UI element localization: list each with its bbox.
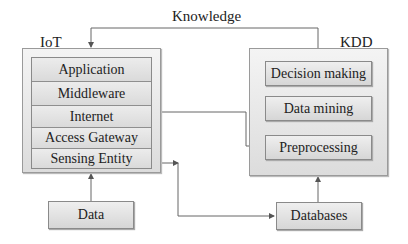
knowledge-label: Knowledge [172, 8, 241, 25]
iot-layer-stack: Application Middleware Internet Access G… [31, 57, 152, 169]
layer-sensing-entity[interactable]: Sensing Entity [32, 149, 151, 168]
data-box[interactable]: Data [48, 201, 134, 229]
layer-label: Internet [70, 109, 114, 125]
layer-application[interactable]: Application [32, 58, 151, 82]
step-decision-making[interactable]: Decision making [265, 61, 372, 86]
databases-label: Databases [291, 208, 348, 224]
step-preprocessing[interactable]: Preprocessing [265, 135, 372, 160]
kdd-container: Decision making Data mining Preprocessin… [249, 48, 388, 176]
step-label: Preprocessing [279, 140, 358, 156]
step-data-mining[interactable]: Data mining [265, 96, 372, 121]
step-label: Data mining [284, 101, 354, 117]
layer-middleware[interactable]: Middleware [32, 82, 151, 106]
layer-label: Application [58, 62, 124, 78]
layer-label: Access Gateway [45, 130, 138, 146]
step-label: Decision making [271, 66, 366, 82]
layer-access-gateway[interactable]: Access Gateway [32, 128, 151, 149]
layer-label: Middleware [58, 86, 126, 102]
databases-box[interactable]: Databases [276, 202, 362, 230]
layer-internet[interactable]: Internet [32, 106, 151, 128]
layer-label: Sensing Entity [50, 151, 132, 167]
data-label: Data [78, 207, 104, 223]
iot-container: Application Middleware Internet Access G… [22, 48, 161, 173]
